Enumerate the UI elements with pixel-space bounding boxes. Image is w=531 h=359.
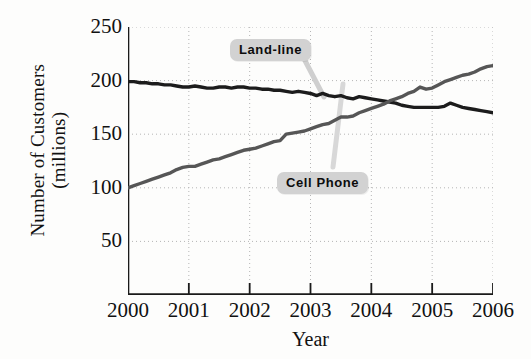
callout-label-landline: Land-line (230, 39, 311, 61)
y-tick-label: 50 (66, 230, 122, 251)
y-axis-ticks: 25020015010050 (60, 0, 122, 300)
plot-area (128, 27, 493, 295)
x-tick-label: 2003 (278, 300, 344, 321)
x-tick-label: 2005 (399, 300, 465, 321)
callout-leader-lines (300, 51, 343, 167)
x-tick-label: 2006 (460, 300, 526, 321)
x-tick-label: 2002 (217, 300, 283, 321)
y-tick-label: 200 (66, 70, 122, 91)
plot-svg (128, 27, 493, 295)
chart-figure: Number of Customers (millions) 250200150… (0, 0, 531, 359)
x-tick-label: 2001 (156, 300, 222, 321)
y-axis-title-line1: Number of Customers (27, 64, 48, 237)
y-tick-label: 250 (66, 16, 122, 37)
x-axis-ticks: 2000200120022003200420052006 (0, 300, 531, 328)
y-tick-label: 150 (66, 123, 122, 144)
x-axis-title: Year (128, 328, 493, 351)
x-tick-label: 2000 (95, 300, 161, 321)
callout-label-cellphone: Cell Phone (277, 172, 368, 194)
x-tick-marks (128, 283, 493, 295)
y-tick-label: 100 (66, 177, 122, 198)
x-tick-label: 2004 (338, 300, 404, 321)
